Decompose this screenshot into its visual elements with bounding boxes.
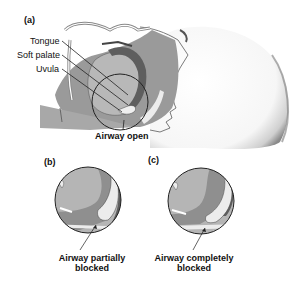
airway-open-caption: Airway open [95, 131, 149, 141]
panel-b-closeup [50, 160, 130, 250]
airway-completely-blocked-caption: Airway completely blocked [144, 253, 244, 273]
uvula-label: Uvula [36, 64, 59, 74]
panel-a-label: (a) [24, 15, 35, 25]
caption-line-2: blocked [144, 263, 244, 273]
figure: (a) Tongue Soft palate Uvula Airway open… [0, 0, 298, 283]
caption-line-1: Airway partially [52, 253, 132, 263]
caption-line-1: Airway completely [144, 253, 244, 263]
tongue-label: Tongue [30, 36, 60, 46]
panel-c-closeup [165, 165, 245, 250]
soft-palate-label: Soft palate [17, 50, 60, 60]
panel-c-label: (c) [148, 155, 159, 165]
airway-partially-blocked-caption: Airway partially blocked [52, 253, 132, 273]
panel-b-label: (b) [44, 157, 56, 167]
caption-line-2: blocked [52, 263, 132, 273]
